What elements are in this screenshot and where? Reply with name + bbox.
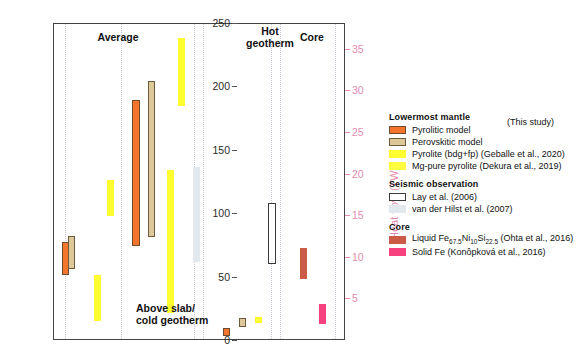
tick-mark bbox=[345, 132, 350, 133]
right-tick-10: 10 bbox=[352, 251, 392, 263]
group-separator-3 bbox=[203, 24, 204, 339]
legend-section-seismic-observation: Seismic observationLay et al. (2006)van … bbox=[389, 179, 578, 215]
range-bar bbox=[148, 81, 156, 237]
range-bar bbox=[132, 100, 140, 246]
tick-mark bbox=[232, 277, 237, 278]
right-tick-25: 25 bbox=[352, 126, 392, 138]
legend-item-label: Mg-pure pyrolite (Dekura et al., 2019) bbox=[412, 161, 562, 172]
plot-area: Average Above slab/ cold geotherm Hot ge… bbox=[53, 23, 345, 340]
tick-mark bbox=[345, 298, 350, 299]
legend-item[interactable]: Mg-pure pyrolite (Dekura et al., 2019) bbox=[389, 160, 578, 172]
tick-mark bbox=[232, 213, 237, 214]
legend-swatch-icon bbox=[389, 150, 406, 158]
group-separator-0 bbox=[65, 24, 66, 339]
legend-swatch-icon bbox=[389, 193, 406, 201]
tick-mark bbox=[345, 90, 350, 91]
legend: Lowermost mantlePyrolitic modelPerovskit… bbox=[389, 112, 578, 265]
legend-this-study-note: (This study) bbox=[507, 117, 554, 127]
range-bar bbox=[107, 180, 114, 216]
range-bar bbox=[94, 275, 101, 321]
tick-mark bbox=[345, 49, 350, 50]
range-bar bbox=[268, 203, 276, 264]
legend-section-title: Seismic observation bbox=[389, 179, 578, 189]
group-separator-1 bbox=[121, 24, 122, 339]
group-label-core: Core bbox=[284, 32, 340, 44]
legend-section-title: Core bbox=[389, 222, 578, 232]
group-separator-4 bbox=[271, 24, 272, 339]
tick-mark bbox=[232, 340, 237, 341]
right-tick-20: 20 bbox=[352, 168, 392, 180]
legend-swatch-icon bbox=[389, 162, 406, 170]
right-tick-35: 35 bbox=[352, 43, 392, 55]
left-tick-50: 50 bbox=[190, 271, 230, 283]
range-bar bbox=[255, 317, 262, 323]
left-tick-100: 100 bbox=[190, 207, 230, 219]
legend-swatch-icon bbox=[389, 126, 406, 134]
left-tick-0: 0 bbox=[190, 334, 230, 346]
right-tick-15: 15 bbox=[352, 209, 392, 221]
left-tick-150: 150 bbox=[190, 144, 230, 156]
tick-mark bbox=[232, 23, 237, 24]
legend-item[interactable]: Lay et al. (2006) bbox=[389, 191, 578, 203]
tick-mark bbox=[232, 86, 237, 87]
tick-mark bbox=[345, 257, 350, 258]
range-bar bbox=[68, 236, 75, 269]
range-bar bbox=[319, 304, 326, 324]
legend-item[interactable]: van der Hilst et al. (2007) bbox=[389, 203, 578, 215]
group-label-average: Average bbox=[70, 32, 166, 44]
right-tick-30: 30 bbox=[352, 84, 392, 96]
legend-item[interactable]: Solid Fe (Konôpková et al., 2016) bbox=[389, 246, 578, 258]
legend-item[interactable]: Pyrolite (bdg+fp) (Geballe et al., 2020) bbox=[389, 148, 578, 160]
legend-swatch-icon bbox=[389, 138, 406, 146]
tick-mark bbox=[345, 174, 350, 175]
legend-item[interactable]: Liquid Fe67.5Ni10Si22.5 (Ohta et al., 20… bbox=[389, 234, 578, 246]
legend-item-label: Pyrolite (bdg+fp) (Geballe et al., 2020) bbox=[412, 149, 565, 160]
range-bar bbox=[167, 170, 174, 313]
left-tick-250: 250 bbox=[190, 17, 230, 29]
legend-item-label: Solid Fe (Konôpková et al., 2016) bbox=[412, 247, 546, 258]
legend-item-label: Liquid Fe67.5Ni10Si22.5 (Ohta et al., 20… bbox=[412, 233, 573, 247]
legend-item-label: van der Hilst et al. (2007) bbox=[412, 204, 513, 215]
legend-section-core: CoreLiquid Fe67.5Ni10Si22.5 (Ohta et al.… bbox=[389, 222, 578, 258]
tick-mark bbox=[345, 215, 350, 216]
legend-swatch-icon bbox=[389, 248, 406, 256]
right-tick-5: 5 bbox=[352, 292, 392, 304]
legend-item-label: Lay et al. (2006) bbox=[412, 192, 477, 203]
legend-swatch-icon bbox=[389, 236, 406, 244]
tick-mark bbox=[232, 150, 237, 151]
range-bar bbox=[300, 248, 307, 278]
left-tick-200: 200 bbox=[190, 80, 230, 92]
group-separator-5 bbox=[280, 24, 281, 339]
legend-section-lowermost-mantle: Lowermost mantlePyrolitic modelPerovskit… bbox=[389, 112, 578, 172]
figure-canvas: Average Above slab/ cold geotherm Hot ge… bbox=[0, 0, 578, 363]
range-bar bbox=[178, 38, 185, 107]
legend-item-label: Perovskitic model bbox=[412, 137, 483, 148]
legend-item[interactable]: Perovskitic model bbox=[389, 136, 578, 148]
group-label-above-slab: Above slab/ cold geotherm bbox=[136, 303, 244, 326]
legend-item-label: Pyrolitic model bbox=[412, 125, 471, 136]
group-separator-6 bbox=[335, 24, 336, 339]
legend-swatch-icon bbox=[389, 205, 406, 213]
